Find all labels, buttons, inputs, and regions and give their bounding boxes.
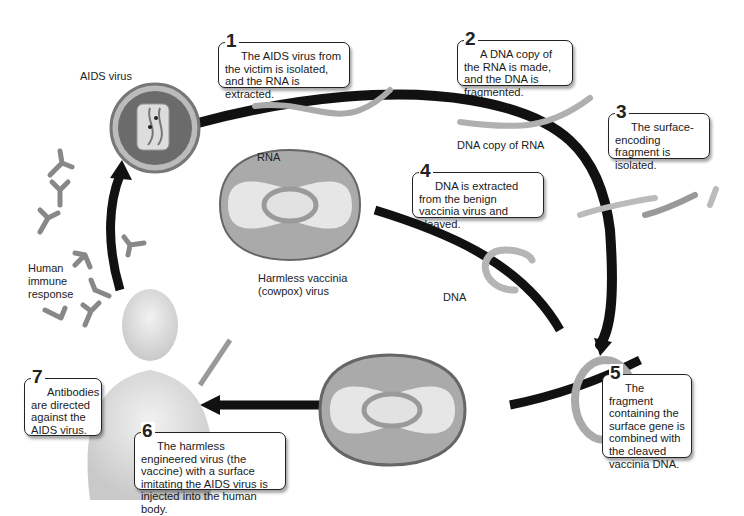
step-2-text: A DNA copy of the RNA is made, and the D… — [464, 48, 566, 98]
immune-label-2: immune — [28, 275, 67, 288]
dna-label: DNA — [443, 291, 466, 304]
step-3-box: 3 The surface-encoding fragment is isola… — [608, 113, 710, 159]
dna-copy-label: DNA copy of RNA — [457, 139, 544, 152]
step-1-text: The AIDS virus from the victim is isolat… — [225, 50, 343, 100]
step-7-text: Antibodies are directed against the AIDS… — [31, 386, 95, 436]
vaccinia-label-1: Harmless vaccinia — [258, 272, 347, 285]
rna-label: RNA — [257, 151, 280, 164]
step-6-number: 6 — [141, 422, 155, 440]
immune-label-1: Human — [28, 262, 63, 275]
step-4-number: 4 — [419, 162, 433, 180]
step-3-text: The surface-encoding fragment is isolate… — [615, 121, 703, 171]
dna-fragment-small — [710, 189, 716, 205]
vaccinia-label-2: (cowpox) virus — [258, 285, 329, 298]
vaccinia-virus-illustration — [220, 150, 360, 260]
step-6-box: 6 The harmless engineered virus (the vac… — [134, 432, 286, 490]
aids-virus-label: AIDS virus — [80, 70, 132, 83]
step-1-number: 1 — [225, 32, 239, 50]
step-7-number: 7 — [31, 368, 45, 386]
aids-virus-illustration — [111, 84, 199, 172]
immune-label-3: response — [28, 288, 73, 301]
step-4-box: 4 DNA is extracted from the benign vacci… — [412, 172, 544, 218]
step-2-box: 2 A DNA copy of the RNA is made, and the… — [457, 40, 573, 86]
step-5-number: 5 — [609, 364, 623, 382]
syringe-icon — [200, 340, 230, 385]
step-5-text: The fragment containing the surface gene… — [609, 382, 685, 470]
step-6-text: The harmless engineered virus (the vacci… — [141, 440, 279, 516]
step-7-box: 7 Antibodies are directed against the AI… — [24, 378, 102, 436]
step-3-number: 3 — [615, 103, 629, 121]
step-5-box: 5 The fragment containing the surface ge… — [602, 374, 692, 458]
step-1-box: 1 The AIDS virus from the victim is isol… — [218, 42, 350, 88]
step-4-text: DNA is extracted from the benign vaccini… — [419, 180, 537, 230]
step-2-number: 2 — [464, 30, 478, 48]
engineered-vaccine-virus — [320, 355, 465, 465]
